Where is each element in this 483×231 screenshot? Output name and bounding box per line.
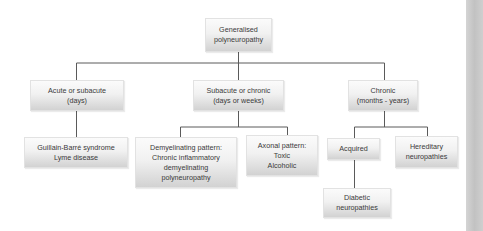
node-generalised-polyneuropathy: Generalised polyneuropathy <box>205 18 272 52</box>
node-chronic: Chronic (months - years) <box>348 80 418 111</box>
node-hereditary-neuropathies: Hereditary neuropathies <box>395 136 458 168</box>
node-subacute-or-chronic: Subacute or chronic (days or weeks) <box>193 80 284 111</box>
node-demyelinating-pattern: Demyelinating pattern: Chronic inflammat… <box>135 137 237 188</box>
node-axonal-pattern: Axonal pattern: Toxic Alcoholic <box>246 135 318 176</box>
node-diabetic-neuropathies: Diabetic neuropathies <box>323 188 391 218</box>
node-acute-or-subacute: Acute or subacute (days) <box>30 80 124 111</box>
node-acquired: Acquired <box>327 138 380 160</box>
node-guillain-barre-lyme: Guillain-Barré syndrome Lyme disease <box>24 137 128 168</box>
